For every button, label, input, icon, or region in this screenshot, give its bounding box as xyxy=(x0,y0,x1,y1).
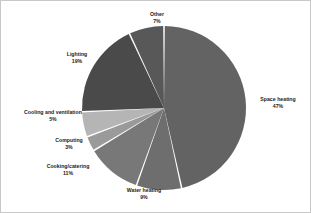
pie-label-other: Other 7% xyxy=(131,11,183,24)
pie-label-cooking-catering: Cooking/catering 11% xyxy=(33,163,103,176)
pie-label-cooling-ventilation: Cooling and ventilation 5% xyxy=(7,109,99,122)
pie-slice-group xyxy=(82,26,246,190)
pie-label-cooking-catering-value: 11% xyxy=(33,170,103,177)
pie-label-cooling-ventilation-name: Cooling and ventilation xyxy=(7,109,99,116)
pie-label-space-heating: Space heating 47% xyxy=(247,96,309,109)
pie-label-other-name: Other xyxy=(131,11,183,18)
pie-label-water-heating: Water heating 9% xyxy=(113,187,175,200)
pie-label-lighting: Lighting 19% xyxy=(53,51,101,64)
pie-label-computing-name: Computing xyxy=(43,137,95,144)
pie-label-computing: Computing 3% xyxy=(43,137,95,150)
pie-label-cooking-catering-name: Cooking/catering xyxy=(33,163,103,170)
pie-label-other-value: 7% xyxy=(131,18,183,25)
pie-label-space-heating-value: 47% xyxy=(247,103,309,110)
pie-label-lighting-value: 19% xyxy=(53,58,101,65)
pie-label-water-heating-name: Water heating xyxy=(113,187,175,194)
pie-label-cooling-ventilation-value: 5% xyxy=(7,116,99,123)
pie-label-lighting-name: Lighting xyxy=(53,51,101,58)
pie-label-computing-value: 3% xyxy=(43,144,95,151)
pie-chart-figure: Other 7% Space heating 47% Water heating… xyxy=(0,0,311,213)
pie-label-space-heating-name: Space heating xyxy=(247,96,309,103)
pie-label-water-heating-value: 9% xyxy=(113,194,175,201)
